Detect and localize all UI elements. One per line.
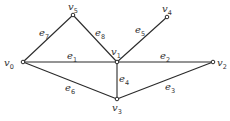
vertex-label-v2: v2 (217, 57, 227, 71)
vertex-label-v4: v4 (162, 3, 172, 17)
vertex-v1 (115, 60, 119, 64)
vertex-label-v0: v0 (4, 57, 14, 71)
vertex-label-v5: v5 (68, 1, 78, 15)
edge-label-e8: e8 (95, 27, 105, 41)
edge-label-e3: e3 (165, 81, 175, 95)
vertex-label-v3: v3 (112, 102, 122, 116)
edge-label-e6: e6 (65, 82, 75, 96)
vertex-v2 (211, 60, 215, 64)
edge-label-e5: e5 (135, 24, 145, 38)
vertex-v0 (21, 60, 25, 64)
edge-label-e4: e4 (119, 73, 129, 87)
vertex-v3 (115, 97, 119, 101)
graph-diagram: e1e2e3e4e5e6e7e8v0v1v2v3v4v5 (0, 0, 230, 121)
edge-label-e7: e7 (39, 27, 49, 41)
